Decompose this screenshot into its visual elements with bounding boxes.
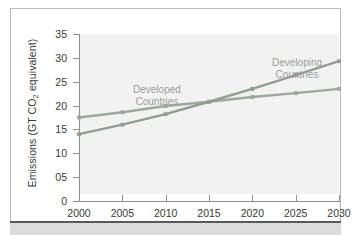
- y-tick-label: 25: [55, 76, 67, 88]
- series-label-developed-line1: Developed: [133, 84, 181, 96]
- y-tick-label: 10: [55, 147, 67, 159]
- series-label-developed-line2: Countries: [133, 96, 181, 108]
- y-tick-label: 20: [55, 100, 67, 112]
- x-tick-label: 2030: [327, 207, 350, 219]
- series-marker: [77, 132, 81, 136]
- x-tick-label: 2025: [284, 207, 307, 219]
- series-marker: [294, 91, 298, 95]
- series-label-developing-line2: Countries: [272, 69, 322, 81]
- x-tick-label: 2020: [241, 207, 264, 219]
- y-tick-label: 15: [55, 123, 67, 135]
- series-marker: [120, 123, 124, 127]
- y-axis-title-main: Emissions (GT CO: [26, 98, 38, 187]
- plot-wrapper: 353025201510050 200020052010201520202025…: [67, 27, 339, 207]
- y-tick-label: 30: [55, 52, 67, 64]
- series-marker: [250, 87, 254, 91]
- y-axis-title-tail: equivalent): [26, 39, 38, 94]
- series-layer: [67, 27, 339, 207]
- x-tick-label: 2015: [197, 207, 220, 219]
- series-marker: [207, 100, 211, 104]
- series-marker: [164, 112, 168, 116]
- series-marker: [337, 59, 341, 63]
- series-label-developed: Developed Countries: [133, 84, 181, 108]
- series-marker: [337, 87, 341, 91]
- series-marker: [77, 116, 81, 120]
- series-marker: [120, 110, 124, 114]
- chart-figure: Emissions (GT CO2 equivalent) 3530252015…: [0, 0, 352, 235]
- y-tick-label: 05: [55, 171, 67, 183]
- chart-card: Emissions (GT CO2 equivalent) 3530252015…: [10, 8, 341, 222]
- y-axis-title: Emissions (GT CO2 equivalent): [26, 20, 42, 206]
- series-label-developing: Developing Countries: [272, 57, 322, 81]
- x-tick-label: 2005: [111, 207, 134, 219]
- x-tick-label: 2010: [154, 207, 177, 219]
- x-tick-label: 2000: [67, 207, 90, 219]
- y-tick-label: 35: [55, 28, 67, 40]
- x-tick-mark: [339, 195, 340, 202]
- y-axis-title-subscript: 2: [31, 94, 40, 98]
- series-marker: [250, 95, 254, 99]
- bottom-band: [10, 223, 341, 235]
- series-label-developing-line1: Developing: [272, 57, 322, 69]
